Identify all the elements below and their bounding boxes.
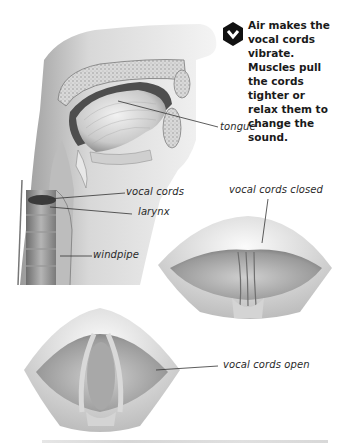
hexagon-chevron-down-icon: [222, 22, 244, 46]
label-vocal-cords-closed: vocal cords closed: [229, 184, 323, 195]
label-larynx: larynx: [138, 206, 170, 217]
glottis-closed-view: [158, 216, 332, 319]
bottom-divider: [42, 440, 328, 443]
label-windpipe: windpipe: [93, 249, 139, 260]
callout-text: Air makes the vocal cords vibrate. Muscl…: [248, 18, 334, 144]
label-vocal-cords: vocal cords: [126, 186, 184, 197]
label-vocal-cords-open: vocal cords open: [223, 359, 310, 370]
